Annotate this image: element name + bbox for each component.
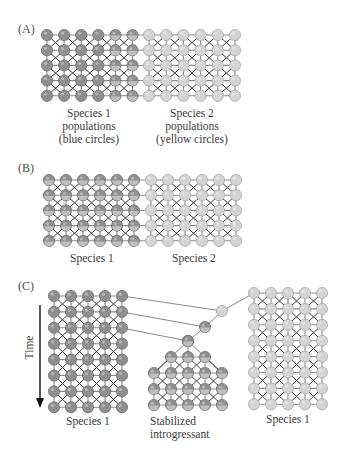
species1-grid-node (41, 45, 52, 56)
species2-grid-node (230, 174, 241, 185)
introgressant-node (216, 383, 227, 394)
species2-grid-node (178, 29, 189, 40)
species1-grid-node (111, 235, 122, 246)
population-nodes (41, 29, 327, 413)
species1-right-grid-node (265, 351, 276, 362)
species1-right-grid-node (248, 399, 259, 410)
species1-grid-node (110, 45, 121, 56)
species2-grid-node (179, 205, 190, 216)
species2-grid-node (213, 220, 224, 231)
species1-grid-node (128, 235, 139, 246)
species1-left-grid-node (65, 370, 76, 381)
species1-right-grid-node (299, 383, 310, 394)
species1-left-grid-node (65, 290, 76, 301)
species1-left-grid-node (48, 354, 59, 365)
species2-grid-node (162, 235, 173, 246)
species2-grid-node (196, 205, 207, 216)
species1-left-grid-node (99, 322, 110, 333)
species2-grid-node (145, 174, 156, 185)
species2-grid-node (161, 75, 172, 86)
species1-right-grid-node (316, 303, 327, 314)
species2-grid-node (212, 75, 223, 86)
species1-grid-node (60, 190, 71, 201)
species1-grid-node (43, 220, 54, 231)
caption-A: Species 1populations(blue circles) (59, 107, 120, 146)
species1-left-grid-node (99, 290, 110, 301)
species1-grid-node (94, 220, 105, 231)
species1-left-grid-node (116, 386, 127, 397)
species1-left-grid-node (116, 338, 127, 349)
species2-grid-node (178, 60, 189, 71)
species2-grid-node (195, 45, 206, 56)
species1-right-grid-node (299, 351, 310, 362)
species1-grid-node (110, 75, 121, 86)
hybrid-node (182, 335, 193, 346)
species2-grid-node (212, 29, 223, 40)
species1-grid-node (127, 75, 138, 86)
species1-grid-node (76, 29, 87, 40)
species2-grid-node (179, 220, 190, 231)
caption-B: Species 1 (70, 252, 114, 265)
introgressant-node (216, 367, 227, 378)
species1-grid-node (77, 205, 88, 216)
introgressant-node (182, 351, 193, 362)
species1-left-grid-node (48, 290, 59, 301)
species1-grid-node (128, 205, 139, 216)
species2-grid-node (195, 90, 206, 101)
species2-grid-node (179, 190, 190, 201)
species1-grid-node (77, 220, 88, 231)
species2-grid-node (179, 174, 190, 185)
species1-grid-node (128, 220, 139, 231)
species1-grid-node (41, 29, 52, 40)
species1-grid-node (60, 174, 71, 185)
species1-right-grid-node (282, 303, 293, 314)
panel-label-B: (B) (18, 161, 34, 175)
species1-right-grid-node (299, 303, 310, 314)
species1-right-grid-node (248, 335, 259, 346)
species1-grid-node (111, 205, 122, 216)
introgressant-node (199, 351, 210, 362)
species1-left-grid-node (116, 290, 127, 301)
species2-grid-node (230, 205, 241, 216)
species2-grid-node (145, 235, 156, 246)
species1-right-grid-node (316, 351, 327, 362)
species1-grid-node (43, 205, 54, 216)
species1-grid-node (60, 235, 71, 246)
species1-right-grid-node (316, 367, 327, 378)
species2-grid-node (196, 174, 207, 185)
introgressant-node (199, 367, 210, 378)
introgressant-node (165, 383, 176, 394)
species2-grid-node (162, 205, 173, 216)
caption-C: Stabilizedintrogressant (150, 415, 210, 441)
species1-grid-node (76, 60, 87, 71)
species2-grid-node (229, 90, 240, 101)
introgressant-node (148, 399, 159, 410)
time-arrow-head (36, 398, 44, 408)
hybrid-node (199, 321, 210, 332)
species1-grid-node (59, 75, 70, 86)
species2-grid-node (143, 45, 154, 56)
species1-grid-node (76, 75, 87, 86)
species1-grid-node (77, 190, 88, 201)
species1-right-grid-node (299, 287, 310, 298)
species2-grid-node (212, 60, 223, 71)
species1-right-grid-node (316, 319, 327, 330)
species2-grid-node (178, 75, 189, 86)
species1-grid-node (94, 190, 105, 201)
species2-grid-node (161, 90, 172, 101)
species2-grid-node (195, 29, 206, 40)
caption-C: Species 1 (266, 413, 310, 426)
species2-grid-node (143, 29, 154, 40)
species2-grid-node (212, 45, 223, 56)
species1-grid-node (60, 220, 71, 231)
species1-grid-node (59, 29, 70, 40)
species1-left-grid-node (99, 338, 110, 349)
species1-right-grid-node (248, 383, 259, 394)
species1-right-grid-node (299, 367, 310, 378)
introgressant-node (182, 399, 193, 410)
species1-left-grid-node (99, 306, 110, 317)
species1-right-grid-node (299, 319, 310, 330)
species1-grid-node (93, 60, 104, 71)
species1-left-grid-node (116, 370, 127, 381)
introgressant-node (216, 399, 227, 410)
